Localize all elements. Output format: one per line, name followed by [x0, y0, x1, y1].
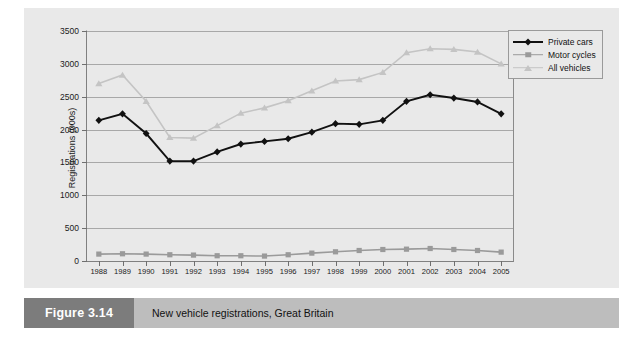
data-point-marker	[308, 129, 315, 136]
x-tick-mark	[312, 261, 313, 266]
data-point-marker	[428, 246, 433, 251]
data-point-marker	[286, 252, 291, 257]
x-axis-label: 1999	[351, 267, 368, 276]
y-tick-mark	[82, 261, 87, 262]
square-marker-icon	[513, 49, 543, 61]
triangle-marker-icon	[513, 62, 543, 74]
figure-container: Registrations (000s) 0500100015002000250…	[0, 0, 641, 345]
data-point-marker	[380, 247, 385, 252]
y-axis-label: 2000	[60, 125, 79, 135]
y-axis-label: 1500	[60, 157, 79, 167]
data-point-marker	[404, 247, 409, 252]
data-point-marker	[214, 148, 221, 155]
x-tick-mark	[454, 261, 455, 266]
data-point-marker	[237, 140, 244, 147]
figure-caption: New vehicle registrations, Great Britain	[134, 298, 334, 328]
x-axis-label: 1996	[280, 267, 297, 276]
x-tick-mark	[430, 261, 431, 266]
data-point-marker	[451, 247, 456, 252]
legend-item-motor-cycles[interactable]: Motor cycles	[513, 48, 596, 61]
series-layer	[87, 31, 513, 261]
data-point-marker	[309, 251, 314, 256]
legend: Private carsMotor cyclesAll vehicles	[508, 30, 603, 79]
x-axis-label: 1994	[232, 267, 249, 276]
y-axis-title: Registrations (000s)	[67, 108, 77, 189]
data-point-marker	[427, 91, 434, 98]
x-axis-label: 2001	[398, 267, 415, 276]
x-axis-label: 1993	[209, 267, 226, 276]
data-point-marker	[190, 158, 197, 165]
y-axis-label: 500	[65, 223, 79, 233]
data-point-marker	[285, 135, 292, 142]
data-point-marker	[356, 121, 363, 128]
legend-label: Motor cycles	[548, 50, 596, 60]
data-point-marker	[333, 249, 338, 254]
data-point-marker	[357, 248, 362, 253]
x-axis-label: 1995	[256, 267, 273, 276]
x-axis-label: 2003	[445, 267, 462, 276]
data-point-marker	[96, 252, 101, 257]
data-point-marker	[262, 253, 267, 258]
series-line	[99, 49, 501, 138]
y-axis-label: 0	[74, 256, 79, 266]
data-point-marker	[214, 122, 221, 128]
data-point-marker	[120, 251, 125, 256]
x-axis-label: 2005	[493, 267, 510, 276]
x-axis-label: 2004	[469, 267, 486, 276]
y-axis-label: 1000	[60, 190, 79, 200]
x-axis-label: 2000	[374, 267, 391, 276]
x-tick-mark	[146, 261, 147, 266]
diamond-marker-icon	[513, 36, 543, 48]
data-point-marker	[498, 110, 505, 117]
data-point-marker	[474, 98, 481, 105]
x-axis-label: 1992	[185, 267, 202, 276]
data-point-marker	[191, 252, 196, 257]
x-axis-label: 1990	[138, 267, 155, 276]
x-tick-mark	[407, 261, 408, 266]
plot-area: 0500100015002000250030003500 19881989199…	[86, 30, 514, 262]
x-tick-mark	[170, 261, 171, 266]
x-axis-label: 1998	[327, 267, 344, 276]
legend-label: All vehicles	[548, 63, 591, 73]
x-axis-label: 1997	[303, 267, 320, 276]
x-tick-mark	[336, 261, 337, 266]
x-axis-label: 1988	[90, 267, 107, 276]
data-point-marker	[215, 253, 220, 258]
legend-item-all-vehicles[interactable]: All vehicles	[513, 61, 596, 74]
x-tick-mark	[501, 261, 502, 266]
series-line	[99, 95, 501, 161]
y-axis-label: 2500	[60, 92, 79, 102]
x-tick-mark	[241, 261, 242, 266]
series-motor-cycles	[96, 246, 504, 259]
data-point-marker	[95, 117, 102, 124]
data-point-marker	[167, 252, 172, 257]
x-tick-mark	[194, 261, 195, 266]
series-line	[99, 249, 501, 257]
data-point-marker	[499, 250, 504, 255]
caption-bar: Figure 3.14 New vehicle registrations, G…	[24, 298, 619, 328]
series-private-cars	[95, 91, 504, 165]
x-axis-label: 1991	[161, 267, 178, 276]
x-axis-label: 1989	[114, 267, 131, 276]
legend-item-private-cars[interactable]: Private cars	[513, 35, 596, 48]
data-point-marker	[332, 120, 339, 127]
data-point-marker	[119, 72, 126, 78]
series-all-vehicles	[95, 45, 505, 140]
data-point-marker	[475, 248, 480, 253]
data-point-marker	[450, 94, 457, 101]
data-point-marker	[261, 138, 268, 145]
y-axis-label: 3000	[60, 59, 79, 69]
legend-label: Private cars	[548, 37, 593, 47]
data-point-marker	[144, 252, 149, 257]
x-tick-mark	[478, 261, 479, 266]
x-tick-mark	[217, 261, 218, 266]
data-point-marker	[238, 253, 243, 258]
x-tick-mark	[359, 261, 360, 266]
x-tick-mark	[265, 261, 266, 266]
x-axis-label: 2002	[422, 267, 439, 276]
x-tick-mark	[288, 261, 289, 266]
figure-number-badge: Figure 3.14	[24, 298, 134, 328]
x-tick-mark	[123, 261, 124, 266]
x-tick-mark	[99, 261, 100, 266]
x-tick-mark	[383, 261, 384, 266]
